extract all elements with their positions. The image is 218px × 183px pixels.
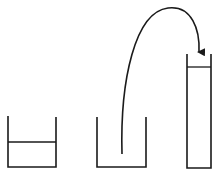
- tall-tube: [187, 54, 211, 168]
- tall-tube-outline: [187, 54, 211, 168]
- transfer-diagram: [0, 0, 218, 183]
- left-beaker: [8, 116, 56, 167]
